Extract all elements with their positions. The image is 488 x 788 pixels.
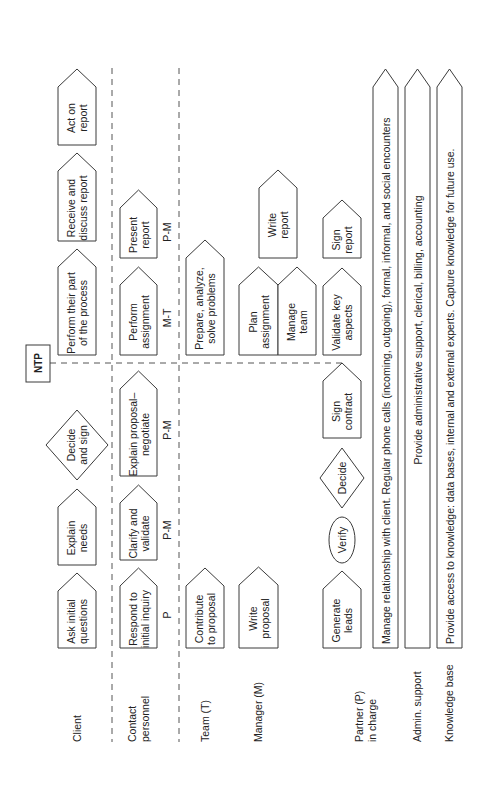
step-contribute-to-proposal-line: Contribute [193,595,205,644]
svg-text:P-M: P-M [161,420,173,439]
step-decide-and-sign: Decideand sign [65,425,89,465]
lane-label-manager-line: Manager (M) [252,682,264,742]
step-generate-leads-line: Generate [330,598,342,642]
role-annotation: P [161,611,173,618]
svg-text:P: P [161,611,173,618]
step-prepare-analyze-solve-problems-line: solve problems [205,273,217,344]
step-perform-assignment-line: Perform [127,303,139,341]
lane-label-admin: Admin. support [411,671,423,742]
step-receive-and-discuss-report-line: discuss report [77,175,89,240]
step-perform-their-part-of-the-process-line: Perform their part [65,272,77,354]
role-annotation: P-M [161,222,173,241]
step-decide-and-sign-line: and sign [77,425,89,465]
step-ask-initial-questions-line: questions [77,599,89,644]
step-perform-their-part-of-the-process: Perform their partof the process [65,272,89,354]
step-respond-to-initial-inquiry: Respond toinitial inquiry [127,589,151,648]
step-explain-needs-line: needs [77,524,89,553]
band-admin-text: Provide administrative support, clerical… [412,195,424,464]
lane-label-knowledge: Knowledge base [443,664,455,742]
step-sign-contract-line: contract [342,393,354,430]
band-relationship-text: Manage relationship with client. Regular… [380,118,392,644]
svg-text:M-T: M-T [161,308,173,327]
svg-text:Provide access to knowledge: d: Provide access to knowledge: data bases,… [444,148,456,644]
band-knowledge-text: Provide access to knowledge: data bases,… [444,148,456,644]
step-contribute-to-proposal: Contributeto proposal [193,593,217,645]
step-decide-line: Decide [336,461,348,494]
lane-label-partner-line: in charge [366,699,378,742]
step-sign-report: Signreport [330,226,354,254]
step-receive-and-discuss-report-line: Receive and [65,179,77,238]
step-manage-team-line: team [297,310,309,334]
step-sign-report-line: report [342,226,354,254]
step-write-proposal-line: proposal [259,598,271,638]
step-decide-and-sign-line: Decide [65,428,77,461]
step-clarify-and-validate: Clarify andvalidate [127,508,151,558]
step-ask-initial-questions: Ask initialquestions [65,599,89,644]
lane-label-admin-line: Admin. support [411,671,423,742]
step-explain-proposal-negotiate-line: negotiate [139,413,151,456]
step-respond-to-initial-inquiry-line: Respond to [127,592,139,646]
step-prepare-analyze-solve-problems: Prepare, analyze,solve problems [193,267,217,349]
process-shapes [26,69,462,648]
step-act-on-report-line: report [77,104,89,132]
lane-label-contact-line: Contact [126,706,138,742]
lane-label-partner-line: Partner (P) [353,691,365,742]
role-annotation: M-T [161,308,173,327]
lane-label-contact: Contactpersonnel [126,696,151,742]
step-present-report: Presentreport [127,217,151,253]
step-write-report: Writereport [266,211,290,239]
svg-text:NTP: NTP [33,353,44,373]
step-explain-needs-line: Explain [65,521,77,556]
step-ask-initial-questions-line: Ask initial [65,599,77,643]
lane-label-contact-line: personnel [139,696,151,742]
step-clarify-and-validate-line: validate [139,515,151,551]
lane-label-team-line: Team (T) [199,700,211,742]
lane-label-knowledge-line: Knowledge base [443,664,455,742]
step-generate-leads-line: leads [342,608,354,633]
step-present-report-line: report [139,221,151,249]
step-act-on-report-line: Act on [65,103,77,133]
step-write-report-line: Write [266,213,278,237]
lane-label-manager: Manager (M) [252,682,264,742]
lane-label-partner: Partner (P)in charge [353,691,378,742]
lane-label-client: Client [71,715,83,742]
step-sign-contract-line: Sign [330,401,342,422]
svg-text:P-M: P-M [161,520,173,539]
lane-label-team: Team (T) [199,700,211,742]
step-validate-key-aspects-line: aspects [342,304,354,340]
role-annotation: P-M [161,420,173,439]
step-sign-report-line: Sign [330,229,342,250]
svg-text:Manage relationship with clien: Manage relationship with client. Regular… [380,118,392,644]
step-write-proposal-line: Write [247,606,259,630]
step-respond-to-initial-inquiry-line: initial inquiry [139,589,151,648]
ntp-label: NTP [33,353,44,373]
step-verify-line: Verify [336,526,348,553]
step-manage-team-line: Manage [285,303,297,341]
step-clarify-and-validate-line: Clarify and [127,508,139,558]
step-verify: Verify [336,526,348,553]
svg-text:P-M: P-M [161,222,173,241]
svg-text:Provide administrative support: Provide administrative support, clerical… [412,195,424,464]
step-prepare-analyze-solve-problems-line: Prepare, analyze, [193,267,205,349]
process-diagram: NTPAsk initialquestionsExplainneedsDecid… [0,0,488,788]
step-plan-assignment-line: Plan [247,311,259,332]
step-contribute-to-proposal-line: to proposal [205,593,217,645]
step-perform-their-part-of-the-process-line: of the process [77,280,89,346]
step-validate-key-aspects-line: Validate key [330,294,342,351]
step-write-report-line: report [278,211,290,239]
step-explain-needs: Explainneeds [65,521,89,556]
step-receive-and-discuss-report: Receive anddiscuss report [65,175,89,240]
step-present-report-line: Present [127,217,139,253]
step-explain-proposal-negotiate-line: Explain proposal– [127,393,139,477]
lane-label-client-line: Client [71,715,83,742]
step-act-on-report: Act onreport [65,103,89,133]
step-perform-assignment-line: assignment [139,295,151,349]
step-plan-assignment-line: assignment [259,295,271,349]
step-decide: Decide [336,461,348,494]
role-annotation: P-M [161,520,173,539]
